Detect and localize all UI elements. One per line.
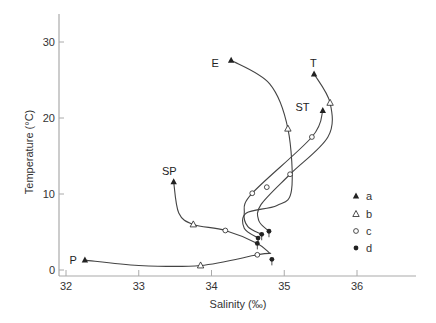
marker-b-open-triangle xyxy=(327,99,333,105)
marker-a-filled-triangle xyxy=(353,193,359,199)
marker-c-open-circle xyxy=(250,191,255,196)
marker-c-open-circle xyxy=(264,185,269,190)
region-label-sp: SP xyxy=(162,165,177,177)
marker-a-filled-triangle xyxy=(311,70,317,76)
y-tick-label: 10 xyxy=(43,188,55,200)
region-label-t: T xyxy=(310,57,317,69)
ts-diagram-chart: 32333435360102030 PSPETST abcd Salinity … xyxy=(0,0,436,323)
region-label-e: E xyxy=(211,57,218,69)
y-tick-label: 0 xyxy=(49,264,55,276)
marker-c-open-circle xyxy=(255,252,260,257)
legend-label-b: b xyxy=(366,208,372,220)
x-axis-label: Salinity (‰) xyxy=(210,298,267,310)
marker-c-open-circle xyxy=(354,229,359,234)
marker-a-filled-triangle xyxy=(320,107,326,113)
curve-p xyxy=(85,253,271,266)
y-tick-label: 30 xyxy=(43,36,55,48)
curve-e xyxy=(231,60,292,238)
legend-label-c: c xyxy=(366,225,372,237)
x-tick-label: 32 xyxy=(60,280,72,292)
marker-a-filled-triangle xyxy=(228,57,234,63)
curves xyxy=(85,60,332,266)
x-tick-label: 35 xyxy=(278,280,290,292)
marker-c-open-circle xyxy=(288,172,293,177)
axes: 32333435360102030 xyxy=(43,14,416,292)
marker-c-open-circle xyxy=(223,228,228,233)
x-tick-label: 36 xyxy=(351,280,363,292)
marker-d-filled-circle xyxy=(354,246,359,251)
legend-label-d: d xyxy=(366,242,372,254)
marker-c-open-circle xyxy=(309,135,314,140)
region-label-p: P xyxy=(70,254,77,266)
curve-st xyxy=(244,110,323,234)
marker-b-open-triangle xyxy=(353,211,359,217)
x-tick-label: 34 xyxy=(205,280,217,292)
legend: abcd xyxy=(353,190,373,254)
marker-b-open-triangle xyxy=(285,125,291,131)
legend-label-a: a xyxy=(366,190,373,202)
y-axis-label: Temperature (°C) xyxy=(23,110,35,194)
y-tick-label: 20 xyxy=(43,112,55,124)
annotations: PSPETST xyxy=(70,57,317,267)
x-tick-label: 33 xyxy=(133,280,145,292)
marker-a-filled-triangle xyxy=(170,178,176,184)
markers xyxy=(82,57,334,268)
region-label-st: ST xyxy=(295,101,309,113)
marker-a-filled-triangle xyxy=(82,257,88,263)
